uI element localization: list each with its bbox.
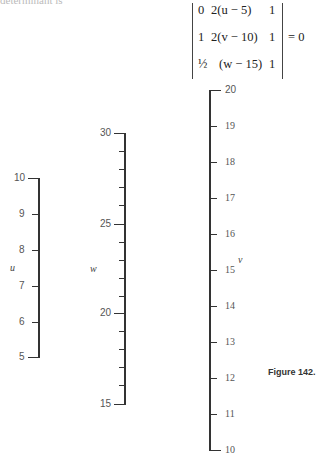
w-axis-line	[124, 133, 126, 405]
v-label: 19	[225, 120, 235, 131]
v-tick	[210, 342, 217, 343]
u-axis-line	[38, 178, 40, 358]
u-label: 8	[19, 244, 25, 255]
w-tick	[119, 169, 125, 170]
v-tick	[210, 306, 217, 307]
det-equals: = 0	[288, 30, 304, 45]
v-tick	[210, 450, 221, 451]
det-r1c2: 2(u − 5)	[211, 3, 251, 18]
w-tick	[119, 242, 125, 243]
det-r2c2: 2(v − 10)	[211, 30, 258, 45]
u-label: 7	[19, 280, 25, 291]
det-r3c3: 1	[269, 57, 275, 72]
w-tick	[119, 367, 125, 368]
v-tick	[210, 270, 217, 271]
v-tick	[210, 198, 217, 199]
w-tick	[119, 385, 125, 386]
w-tick	[114, 313, 125, 314]
u-variable-name: u	[10, 262, 15, 273]
v-label: 13	[225, 336, 235, 347]
u-label: 5	[19, 351, 25, 362]
w-label: 30	[100, 127, 111, 138]
cut-off-text: determinant is	[0, 0, 63, 6]
w-tick	[119, 205, 125, 206]
w-tick	[114, 404, 125, 405]
det-r3c2: (w − 15)	[219, 57, 262, 72]
figure-caption: Figure 142.	[268, 367, 316, 377]
v-label: 10	[225, 444, 235, 455]
v-variable-name: v	[238, 254, 242, 265]
u-tick	[32, 214, 39, 215]
u-label: 6	[19, 316, 25, 327]
det-r3c1: ½	[198, 57, 207, 72]
u-label: 10	[14, 172, 25, 183]
u-tick	[32, 286, 39, 287]
left-determinant-bar	[192, 3, 193, 79]
w-tick	[119, 260, 125, 261]
right-determinant-bar	[282, 3, 283, 79]
det-r1c1: 0	[198, 3, 204, 18]
w-label: 20	[100, 307, 111, 318]
u-tick	[32, 250, 39, 251]
v-tick	[210, 378, 217, 379]
v-tick	[210, 414, 217, 415]
v-label: 17	[225, 192, 235, 203]
det-r2c3: 1	[269, 30, 275, 45]
det-r1c3: 1	[269, 3, 275, 18]
v-label: 11	[225, 408, 235, 419]
w-tick	[114, 133, 125, 134]
w-label: 25	[100, 218, 111, 229]
w-tick	[114, 224, 125, 225]
w-tick	[119, 151, 125, 152]
v-tick	[210, 162, 217, 163]
u-tick	[32, 322, 39, 323]
v-tick	[210, 126, 217, 127]
det-r2c1: 1	[198, 30, 204, 45]
u-tick	[28, 178, 39, 179]
v-tick	[210, 90, 221, 91]
u-tick	[28, 357, 39, 358]
v-tick	[210, 234, 217, 235]
w-label: 15	[100, 398, 111, 409]
w-tick	[119, 187, 125, 188]
w-tick	[119, 349, 125, 350]
w-tick	[119, 296, 125, 297]
v-label: 14	[225, 300, 235, 311]
v-label: 15	[225, 264, 235, 275]
v-label: 18	[225, 156, 235, 167]
u-label: 9	[19, 208, 25, 219]
v-label: 20	[225, 84, 236, 95]
w-tick	[119, 331, 125, 332]
v-label: 16	[225, 228, 235, 239]
w-tick	[119, 278, 125, 279]
v-label: 12	[225, 372, 235, 383]
w-variable-name: w	[90, 263, 97, 274]
